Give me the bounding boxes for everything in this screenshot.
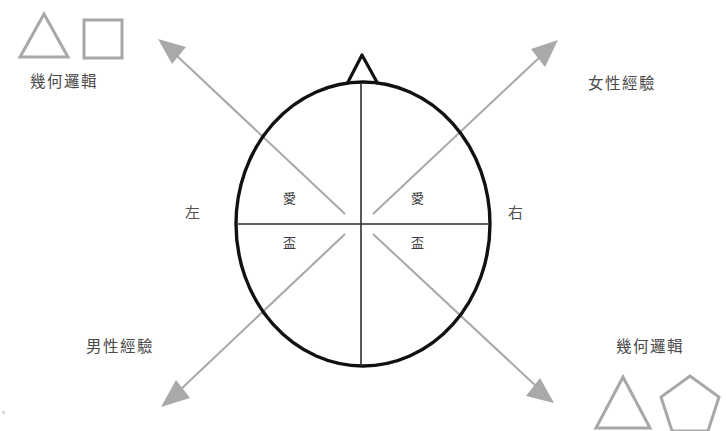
label-top-right-female-experience: 女性經驗	[588, 76, 656, 92]
label-quadrant-lower-left: 盃	[283, 236, 296, 249]
label-side-right: 右	[508, 205, 524, 220]
triangle-outline-icon	[596, 377, 650, 428]
arrow-up-left-icon	[158, 39, 345, 214]
arrow-up-right-icon	[373, 40, 558, 214]
pentagon-outline-icon	[661, 376, 719, 431]
label-quadrant-lower-right: 盃	[411, 236, 424, 249]
square-outline-icon	[84, 20, 122, 58]
label-bottom-right-geometric-logic: 幾何邏輯	[616, 339, 684, 355]
label-bottom-left-male-experience: 男性經驗	[86, 339, 154, 355]
shapes-bottom-right	[596, 376, 719, 431]
arrow-down-right-icon	[373, 234, 554, 403]
head-quadrant-diagram	[0, 0, 726, 431]
label-quadrant-upper-right: 愛	[411, 192, 424, 205]
artifact-mark: 。	[2, 407, 10, 415]
triangle-outline-icon	[20, 14, 68, 57]
label-side-left: 左	[185, 205, 201, 220]
arrow-group	[158, 39, 558, 407]
diagram-canvas: 幾何邏輯 女性經驗 男性經驗 幾何邏輯 左 右 愛 愛 盃 盃 。	[0, 0, 726, 431]
arrow-down-left-icon	[161, 234, 345, 407]
head-top-notch-icon	[347, 55, 378, 84]
label-top-left-geometric-logic: 幾何邏輯	[30, 74, 98, 90]
label-quadrant-upper-left: 愛	[283, 192, 296, 205]
shapes-top-left	[20, 14, 122, 58]
head-outline	[236, 55, 490, 366]
